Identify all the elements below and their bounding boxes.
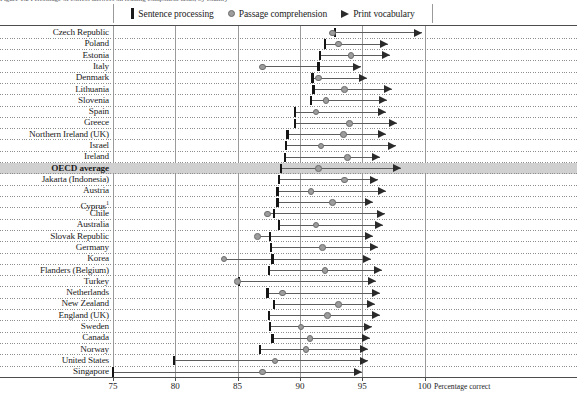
row-markers	[113, 163, 577, 175]
chart-row: Slovenia	[0, 95, 577, 107]
row-label: Ireland	[0, 151, 109, 163]
triangle-marker-icon	[378, 187, 386, 195]
triangle-marker-icon	[377, 210, 385, 218]
triangle-marker-icon	[365, 198, 373, 206]
row-label: Germany	[0, 242, 109, 254]
chart-row: Slovak Republic	[0, 231, 577, 243]
legend-label: Passage comprehension	[239, 9, 327, 19]
bar-marker-icon	[173, 356, 175, 365]
legend-label: Print vocabulary	[353, 9, 414, 19]
triangle-marker-icon	[370, 176, 378, 184]
row-label: OECD average	[0, 163, 109, 175]
chart-row: Flanders (Belgium)	[0, 265, 577, 277]
triangle-marker-icon	[364, 323, 372, 331]
bar-marker-icon	[269, 322, 271, 331]
range-line	[272, 338, 369, 339]
chart-row: Czech Republic	[0, 27, 577, 39]
chart-row: New Zealand	[0, 298, 577, 310]
legend-item-sentence-processing: Sentence processing	[131, 8, 213, 19]
row-markers	[113, 72, 577, 84]
circle-marker-icon	[346, 120, 353, 127]
row-label: New Zealand	[0, 298, 109, 310]
chart-row: Chile	[0, 208, 577, 220]
range-line	[286, 145, 396, 146]
row-markers	[113, 332, 577, 344]
circle-marker-icon	[340, 131, 347, 138]
row-label: Slovenia	[0, 95, 109, 107]
range-line	[270, 326, 372, 327]
row-label: Denmark	[0, 72, 109, 84]
legend-item-print-vocabulary: Print vocabulary	[341, 9, 414, 19]
triangle-marker-icon	[378, 130, 386, 138]
bar-marker-icon	[276, 198, 278, 207]
circle-marker-icon	[318, 143, 325, 150]
chart-row: Norway	[0, 344, 577, 356]
triangle-marker-icon	[384, 85, 392, 93]
circle-marker-icon	[279, 290, 286, 297]
chart-row: OECD average	[0, 163, 577, 175]
range-line	[263, 66, 361, 67]
bar-marker-icon	[112, 367, 114, 376]
circle-marker-icon	[335, 41, 342, 48]
triangle-marker-icon	[372, 153, 380, 161]
triangle-marker-icon	[389, 119, 397, 127]
bar-marker-icon	[286, 130, 288, 139]
row-label: Italy	[0, 61, 109, 73]
range-line	[238, 281, 376, 282]
row-label: Spain	[0, 106, 109, 118]
triangle-marker-icon	[354, 368, 362, 376]
triangle-marker-icon	[375, 221, 383, 229]
axis-tick-label: 100	[418, 381, 432, 391]
row-markers	[113, 38, 577, 50]
chart-row: Poland	[0, 38, 577, 50]
bar-marker-icon	[324, 39, 326, 48]
row-label: Greece	[0, 117, 109, 129]
row-markers	[113, 310, 577, 322]
bar-marker-icon	[278, 175, 280, 184]
range-line	[258, 236, 374, 237]
circle-marker-icon	[329, 30, 336, 37]
triangle-marker-icon	[362, 334, 370, 342]
row-markers	[113, 242, 577, 254]
chart-row: England (UK)	[0, 310, 577, 322]
chart-row: Austria	[0, 185, 577, 197]
row-markers	[113, 197, 577, 209]
bar-marker-icon	[269, 232, 271, 241]
circle-marker-icon	[228, 10, 235, 17]
bar-marker-icon	[310, 96, 312, 105]
chart-row: Estonia	[0, 50, 577, 62]
circle-marker-icon	[264, 211, 271, 218]
chart-row: Spain	[0, 106, 577, 118]
circle-marker-icon	[319, 244, 326, 251]
chart-row: Australia	[0, 219, 577, 231]
axis-tick-label: 95	[358, 381, 367, 391]
row-markers	[113, 84, 577, 96]
bar-marker-icon	[268, 266, 270, 275]
bar-marker-icon	[131, 8, 134, 19]
bar-marker-icon	[294, 107, 296, 116]
bar-marker-icon	[271, 334, 273, 343]
x-axis-line	[0, 377, 577, 378]
row-label: United States	[0, 355, 109, 367]
circle-marker-icon	[323, 97, 330, 104]
circle-marker-icon	[315, 75, 322, 82]
triangle-marker-icon	[379, 96, 387, 104]
row-markers	[113, 276, 577, 288]
circle-marker-icon	[313, 109, 320, 116]
chart-legend: Sentence processing Passage comprehensio…	[113, 4, 433, 23]
range-line	[277, 191, 385, 192]
row-markers	[113, 117, 577, 129]
row-label: Northern Ireland (UK)	[0, 129, 109, 141]
bar-marker-icon	[276, 187, 278, 196]
row-label: Canada	[0, 332, 109, 344]
circle-marker-icon	[221, 256, 228, 263]
row-label: Lithuania	[0, 84, 109, 96]
row-markers	[113, 321, 577, 333]
chart-row: United States	[0, 355, 577, 367]
range-line	[274, 304, 375, 305]
row-markers	[113, 344, 577, 356]
circle-marker-icon	[308, 188, 315, 195]
row-label: Sweden	[0, 321, 109, 333]
row-label: Czech Republic	[0, 27, 109, 39]
row-label: Cyprus1	[0, 197, 109, 209]
